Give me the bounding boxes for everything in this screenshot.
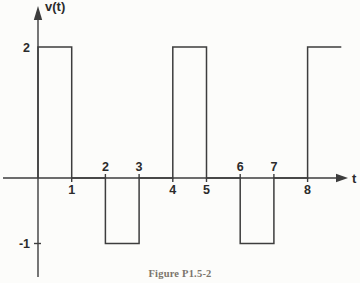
x-tick-label: 4 — [169, 183, 176, 197]
x-tick-label: 7 — [270, 160, 277, 174]
y-axis-title: v(t) — [45, 0, 65, 14]
x-tick-label: 5 — [203, 183, 210, 197]
waveform-trace — [38, 47, 341, 244]
x-tick-label: 8 — [304, 183, 311, 197]
y-tick-label: 2 — [23, 41, 30, 55]
x-tick-label: 6 — [237, 160, 244, 174]
figure-container: 123456782-1v(t)t Figure P1.5-2 — [0, 0, 360, 283]
x-tick-label: 1 — [68, 183, 75, 197]
x-tick-label: 3 — [136, 160, 143, 174]
y-axis-arrowhead-icon — [34, 6, 42, 20]
x-axis-arrowhead-icon — [336, 174, 348, 182]
y-tick-label: -1 — [19, 237, 30, 251]
x-axis-title: t — [352, 171, 357, 186]
figure-caption: Figure P1.5-2 — [0, 268, 360, 279]
x-tick-label: 2 — [102, 160, 109, 174]
waveform-chart: 123456782-1v(t)t — [0, 0, 360, 283]
